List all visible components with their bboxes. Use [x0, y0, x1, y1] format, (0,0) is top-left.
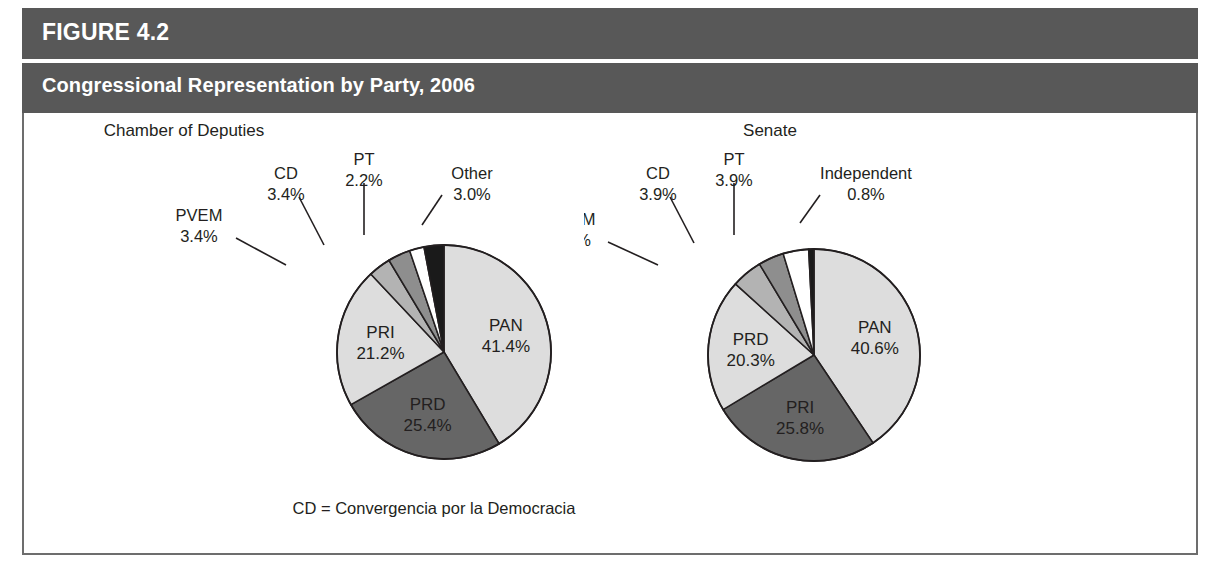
slice-label-name-pan: PAN [489, 316, 523, 335]
figure-title-bar: Congressional Representation by Party, 2… [22, 63, 1198, 113]
outer-label-value-cd: 3.9% [639, 185, 677, 203]
leader-line-pvem [608, 242, 658, 265]
charts-area: Chamber of Deputies PAN41.4%PRD25.4%PRI2… [24, 113, 1200, 555]
slice-label-name-pri: PRI [786, 398, 814, 417]
figure-title: Congressional Representation by Party, 2… [42, 74, 475, 97]
outer-label-name-other: Other [451, 164, 493, 182]
slice-label-value-prd: 20.3% [727, 351, 775, 370]
leader-line-cd [299, 197, 324, 245]
leader-line-independent [800, 195, 820, 223]
outer-label-value-cd: 3.4% [267, 185, 305, 203]
outer-label-name-pt: PT [723, 150, 744, 168]
slice-label-name-prd: PRD [410, 395, 446, 414]
outer-label-name-pvem: PVEM [176, 206, 223, 224]
leader-line-cd [670, 197, 694, 243]
outer-label-value-pt: 3.9% [715, 171, 753, 189]
slice-label-value-pri: 21.2% [356, 344, 404, 363]
outer-label-value-pvem: 4.7% [584, 231, 591, 249]
figure-root: FIGURE 4.2 Congressional Representation … [0, 0, 1212, 577]
leader-line-other [422, 195, 442, 225]
slice-label-value-pri: 25.8% [776, 419, 824, 438]
figure-number: FIGURE 4.2 [42, 19, 169, 46]
outer-label-value-independent: 0.8% [847, 185, 885, 203]
slice-label-name-prd: PRD [733, 330, 769, 349]
slice-label-value-pan: 41.4% [482, 337, 530, 356]
leader-line-pvem [236, 238, 286, 265]
figure-number-bar: FIGURE 4.2 [22, 8, 1198, 59]
slice-label-name-pan: PAN [858, 318, 892, 337]
outer-label-name-cd: CD [646, 164, 670, 182]
pie-chart-chamber-of-deputies: PAN41.4%PRD25.4%PRI21.2%PVEM3.4%CD3.4%PT… [24, 113, 624, 513]
slice-label-value-prd: 25.4% [403, 416, 451, 435]
outer-label-name-cd: CD [274, 164, 298, 182]
outer-label-value-other: 3.0% [453, 185, 491, 203]
figure-header-band: FIGURE 4.2 Congressional Representation … [22, 8, 1198, 113]
outer-label-name-pt: PT [353, 150, 374, 168]
slice-label-name-pri: PRI [366, 323, 394, 342]
figure-body: Chamber of Deputies PAN41.4%PRD25.4%PRI2… [22, 113, 1198, 555]
figure-footnote: CD = Convergencia por la Democracia [24, 499, 844, 518]
outer-label-name-pvem: PVEM [584, 210, 595, 228]
slice-label-value-pan: 40.6% [851, 339, 899, 358]
outer-label-value-pt: 2.2% [345, 171, 383, 189]
outer-label-value-pvem: 3.4% [180, 227, 218, 245]
outer-label-name-independent: Independent [820, 164, 912, 182]
pie-chart-senate: PAN40.6%PRI25.8%PRD20.3%PVEM4.7%CD3.9%PT… [584, 113, 1200, 513]
